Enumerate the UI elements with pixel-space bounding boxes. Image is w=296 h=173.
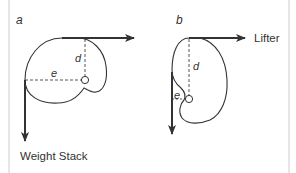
panel-b: b Lifter d e — [172, 13, 280, 134]
cam-diagram: a d e Weight Stack b Lifter — [0, 0, 296, 173]
cam-a-outline — [25, 38, 107, 103]
figure-frame: a d e Weight Stack b Lifter — [0, 0, 296, 173]
label-d-b: d — [193, 60, 200, 72]
cam-b-outline — [172, 38, 227, 124]
panel-a-label: a — [16, 13, 23, 27]
lifter-label: Lifter — [254, 32, 280, 44]
label-e-a: e — [51, 67, 57, 79]
panel-a: a d e Weight Stack — [16, 13, 134, 162]
label-e-b: e — [174, 89, 180, 101]
panel-b-label: b — [176, 13, 183, 27]
weight-stack-label: Weight Stack — [20, 150, 88, 162]
pivot-a-icon — [81, 76, 88, 83]
label-d-a: d — [75, 52, 82, 64]
pivot-b-icon — [185, 95, 192, 102]
